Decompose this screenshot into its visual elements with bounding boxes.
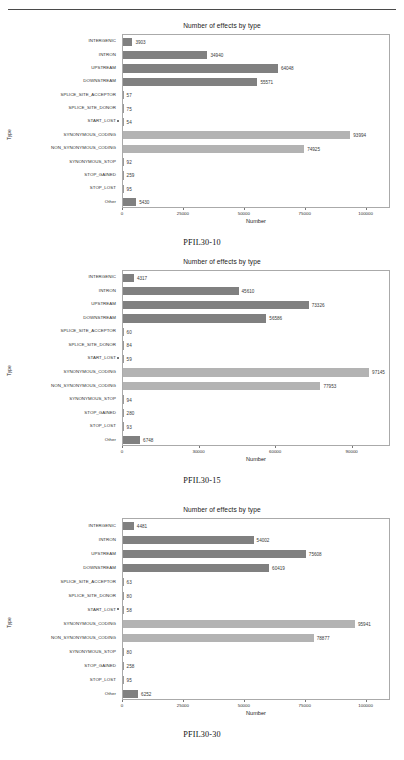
bar-row: 59: [123, 352, 389, 366]
y-category-label: INTERGENIC: [0, 270, 120, 284]
bar-start-lost[interactable]: 59: [123, 355, 124, 363]
bar-row: 93994: [123, 129, 389, 142]
bar-intron[interactable]: 54002: [123, 536, 254, 545]
bar-non-synonymous-coding[interactable]: 74925: [123, 145, 304, 153]
bar-row: 58: [123, 603, 389, 617]
bar-synonymous-stop[interactable]: 94: [123, 395, 124, 403]
y-tick-mark: [117, 358, 119, 359]
y-category-label: SPLICE_SITE_DONOR: [0, 101, 120, 114]
running-head: [0, 0, 404, 9]
bar-value-label: 3903: [135, 39, 145, 44]
bar-stop-lost[interactable]: 93: [123, 422, 124, 430]
bar-synonymous-coding[interactable]: 97145: [123, 368, 369, 376]
bar-row: 4317: [123, 271, 389, 285]
bar-value-label: 280: [127, 411, 135, 416]
bar-value-label: 74925: [307, 146, 320, 151]
y-category-label: STOP_LOST: [0, 181, 120, 194]
bar-stop-gained[interactable]: 280: [123, 409, 124, 417]
x-tick-label: 25000: [177, 211, 189, 216]
bar-start-lost[interactable]: 54: [123, 118, 124, 126]
bar-splice-site-donor[interactable]: 80: [123, 592, 124, 601]
bar-splice-site-donor[interactable]: 84: [123, 341, 124, 349]
bar-rows: 4317456107332656586608459971457795394280…: [123, 271, 389, 445]
bar-upstream[interactable]: 73326: [123, 301, 309, 309]
bar-synonymous-stop[interactable]: 80: [123, 648, 124, 657]
bar-other[interactable]: 5430: [123, 198, 136, 206]
bar-row: 57: [123, 89, 389, 102]
bar-upstream[interactable]: 64048: [123, 64, 278, 72]
bar-value-label: 97145: [372, 370, 385, 375]
y-category-label: UPSTREAM: [0, 297, 120, 311]
y-category-label: SYNONYMOUS_CODING: [0, 616, 120, 630]
bar-rows: 4481540027560860419638058959417887780258…: [123, 519, 389, 699]
bar-other[interactable]: 6748: [123, 436, 140, 444]
y-category-label: SPLICE_SITE_ACCEPTOR: [0, 574, 120, 588]
bar-synonymous-stop[interactable]: 92: [123, 158, 124, 166]
bar-intergenic[interactable]: 4481: [123, 522, 134, 531]
y-category-label: START_LOST: [0, 114, 120, 127]
bar-value-label: 60419: [272, 565, 285, 570]
bar-synonymous-coding[interactable]: 95941: [123, 620, 355, 629]
bar-value-label: 84: [127, 343, 132, 348]
bar-intron[interactable]: 34940: [123, 51, 207, 59]
bar-value-label: 54002: [257, 537, 270, 542]
bar-row: 84: [123, 339, 389, 353]
bar-row: 54002: [123, 533, 389, 547]
x-tick-label: 75000: [299, 211, 311, 216]
bar-synonymous-coding[interactable]: 93994: [123, 131, 350, 139]
bar-row: 259: [123, 169, 389, 182]
bar-stop-lost[interactable]: 95: [123, 185, 124, 193]
y-category-label: SYNONYMOUS_STOP: [0, 392, 120, 406]
bar-row: 64048: [123, 62, 389, 75]
x-tick-label: 75000: [299, 703, 311, 708]
bar-value-label: 80: [127, 593, 132, 598]
plot-area: 4481540027560860419638058959417887780258…: [122, 518, 390, 700]
bar-stop-gained[interactable]: 259: [123, 171, 124, 179]
bar-splice-site-acceptor[interactable]: 60: [123, 328, 124, 336]
bar-upstream[interactable]: 75608: [123, 550, 306, 559]
y-category-label: Other: [0, 195, 120, 208]
bar-row: 54: [123, 115, 389, 128]
bar-row: 4481: [123, 519, 389, 533]
bar-stop-gained[interactable]: 258: [123, 662, 124, 671]
bar-downstream[interactable]: 60419: [123, 564, 269, 573]
bar-splice-site-acceptor[interactable]: 63: [123, 578, 124, 587]
bar-row: 80: [123, 645, 389, 659]
y-category-label: NON_SYNONYMOUS_CODING: [0, 378, 120, 392]
figure-caption: PFIL30-10: [0, 238, 404, 247]
bar-non-synonymous-coding[interactable]: 78877: [123, 634, 314, 643]
document-page: Number of effects by type Type INTERGENI…: [0, 0, 404, 760]
x-tick-label: 50000: [238, 703, 250, 708]
bar-downstream[interactable]: 56586: [123, 314, 266, 322]
bar-intergenic[interactable]: 4317: [123, 274, 134, 282]
bar-value-label: 6252: [141, 691, 151, 696]
bar-row: 45610: [123, 285, 389, 299]
bar-splice-site-donor[interactable]: 75: [123, 104, 124, 112]
figure-caption: PFIL30-15: [0, 476, 404, 485]
bar-non-synonymous-coding[interactable]: 77953: [123, 382, 320, 390]
bar-value-label: 92: [127, 160, 132, 165]
y-category-label: Other: [0, 432, 120, 446]
y-category-label: Other: [0, 686, 120, 700]
bar-start-lost[interactable]: 58: [123, 606, 124, 615]
bar-value-label: 60: [127, 329, 132, 334]
bar-value-label: 55571: [260, 79, 273, 84]
bar-other[interactable]: 6252: [123, 690, 138, 699]
y-category-label: NON_SYNONYMOUS_CODING: [0, 141, 120, 154]
bar-intergenic[interactable]: 3903: [123, 38, 132, 46]
bar-stop-lost[interactable]: 95: [123, 676, 124, 685]
y-axis-categories: INTERGENICINTRONUPSTREAMDOWNSTREAMSPLICE…: [0, 518, 120, 700]
x-axis-title: Number: [122, 456, 390, 462]
bar-value-label: 94: [127, 397, 132, 402]
bar-splice-site-acceptor[interactable]: 57: [123, 91, 124, 99]
y-category-label: NON_SYNONYMOUS_CODING: [0, 630, 120, 644]
bar-intron[interactable]: 45610: [123, 287, 239, 295]
bar-value-label: 78877: [317, 635, 330, 640]
bar-row: 94: [123, 393, 389, 407]
bar-downstream[interactable]: 55571: [123, 78, 257, 86]
y-category-label: SPLICE_SITE_ACCEPTOR: [0, 324, 120, 338]
y-category-label: SYNONYMOUS_CODING: [0, 365, 120, 379]
bar-value-label: 58: [127, 607, 132, 612]
bar-row: 93: [123, 420, 389, 434]
y-category-label: SYNONYMOUS_STOP: [0, 154, 120, 167]
